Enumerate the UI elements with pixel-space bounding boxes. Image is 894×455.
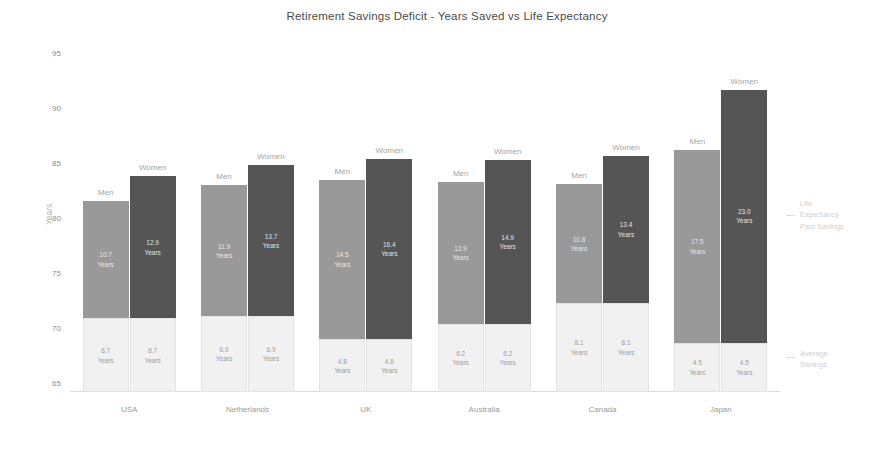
segment-value-label: 14.9 Years bbox=[485, 232, 531, 251]
bar-group-netherlands: 6.9 Years11.9 YearsMen6.9 Years13.7 Year… bbox=[201, 62, 294, 392]
bar-top-label-women: Women bbox=[248, 152, 294, 161]
segment-value-label: 23.0 Years bbox=[721, 207, 767, 226]
segment-life-expectancy-past-savings: 16.4 Years bbox=[366, 159, 412, 339]
segment-life-expectancy-past-savings: 23.0 Years bbox=[721, 90, 767, 343]
y-axis-tick-label: 70 bbox=[52, 324, 70, 333]
segment-value-label: 13.7 Years bbox=[248, 231, 294, 250]
segment-average-savings: 6.2 Years bbox=[485, 324, 531, 392]
segment-life-expectancy-past-savings: 13.4 Years bbox=[603, 156, 649, 303]
segment-average-savings: 4.8 Years bbox=[366, 339, 412, 392]
y-axis-tick-label: 75 bbox=[52, 269, 70, 278]
segment-value-label: 13.4 Years bbox=[603, 220, 649, 239]
bar-top-label-women: Women bbox=[366, 146, 412, 155]
segment-life-expectancy-past-savings: 10.7 Years bbox=[83, 201, 129, 319]
annotation-leader-deficit bbox=[786, 215, 795, 216]
bar-australia-men[interactable]: 6.2 Years12.9 YearsMen bbox=[438, 182, 484, 392]
x-axis-category-label: Japan bbox=[710, 405, 732, 414]
bar-uk-men[interactable]: 4.8 Years14.5 YearsMen bbox=[319, 180, 365, 392]
x-axis-category-label: Netherlands bbox=[226, 405, 269, 414]
segment-value-label: 6.7 Years bbox=[84, 346, 128, 365]
segment-average-savings: 4.5 Years bbox=[674, 343, 720, 393]
segment-value-label: 4.8 Years bbox=[367, 356, 411, 375]
segment-value-label: 11.9 Years bbox=[201, 241, 247, 260]
y-axis-tick-label: 80 bbox=[52, 214, 70, 223]
segment-value-label: 6.9 Years bbox=[249, 345, 293, 364]
bar-top-label-women: Women bbox=[130, 163, 176, 172]
bar-group-uk: 4.8 Years14.5 YearsMen4.8 Years16.4 Year… bbox=[319, 62, 412, 392]
bar-australia-women[interactable]: 6.2 Years14.9 YearsWomen bbox=[485, 160, 531, 392]
bar-top-label-men: Men bbox=[556, 171, 602, 180]
segment-value-label: 12.9 Years bbox=[438, 243, 484, 262]
bar-group-canada: 8.1 Years10.8 YearsMen8.1 Years13.4 Year… bbox=[556, 62, 649, 392]
segment-life-expectancy-past-savings: 14.9 Years bbox=[485, 160, 531, 324]
x-axis-category-label: Canada bbox=[588, 405, 616, 414]
bar-top-label-men: Men bbox=[83, 188, 129, 197]
segment-value-label: 4.5 Years bbox=[675, 358, 719, 377]
segment-average-savings: 8.1 Years bbox=[603, 303, 649, 392]
segment-average-savings: 4.5 Years bbox=[721, 343, 767, 393]
bar-japan-women[interactable]: 4.5 Years23.0 YearsWomen bbox=[721, 90, 767, 393]
y-axis-tick-label: 85 bbox=[52, 159, 70, 168]
segment-value-label: 4.5 Years bbox=[722, 358, 766, 377]
chart-container: Retirement Savings Deficit - Years Saved… bbox=[0, 0, 894, 455]
segment-life-expectancy-past-savings: 12.9 Years bbox=[130, 176, 176, 318]
segment-value-label: 6.2 Years bbox=[439, 348, 483, 367]
segment-life-expectancy-past-savings: 12.9 Years bbox=[438, 182, 484, 324]
bar-canada-men[interactable]: 8.1 Years10.8 YearsMen bbox=[556, 184, 602, 392]
segment-value-label: 6.7 Years bbox=[131, 346, 175, 365]
segment-value-label: 10.8 Years bbox=[556, 234, 602, 253]
bar-top-label-women: Women bbox=[721, 77, 767, 86]
segment-value-label: 6.2 Years bbox=[486, 348, 530, 367]
segment-value-label: 10.7 Years bbox=[83, 250, 129, 269]
segment-life-expectancy-past-savings: 13.7 Years bbox=[248, 165, 294, 316]
segment-average-savings: 6.7 Years bbox=[130, 318, 176, 392]
plot-area: 65707580859095 6.7 Years10.7 YearsMen6.7… bbox=[70, 62, 780, 392]
y-axis-tick-label: 95 bbox=[52, 49, 70, 58]
segment-value-label: 17.5 Years bbox=[674, 237, 720, 256]
segment-life-expectancy-past-savings: 14.5 Years bbox=[319, 180, 365, 340]
bar-netherlands-men[interactable]: 6.9 Years11.9 YearsMen bbox=[201, 185, 247, 392]
segment-average-savings: 6.7 Years bbox=[83, 318, 129, 392]
bar-top-label-women: Women bbox=[485, 147, 531, 156]
bar-canada-women[interactable]: 8.1 Years13.4 YearsWomen bbox=[603, 156, 649, 393]
segment-value-label: 14.5 Years bbox=[319, 250, 365, 269]
y-axis-tick-label: 90 bbox=[52, 104, 70, 113]
segment-value-label: 8.1 Years bbox=[604, 338, 648, 357]
bar-usa-men[interactable]: 6.7 Years10.7 YearsMen bbox=[83, 201, 129, 392]
segment-value-label: 8.1 Years bbox=[557, 338, 601, 357]
bar-group-australia: 6.2 Years12.9 YearsMen6.2 Years14.9 Year… bbox=[438, 62, 531, 392]
chart-title: Retirement Savings Deficit - Years Saved… bbox=[0, 10, 894, 22]
bar-top-label-men: Men bbox=[201, 172, 247, 181]
bar-top-label-men: Men bbox=[319, 167, 365, 176]
bar-japan-men[interactable]: 4.5 Years17.5 YearsMen bbox=[674, 150, 720, 392]
segment-value-label: 12.9 Years bbox=[130, 238, 176, 257]
x-axis-category-label: USA bbox=[121, 405, 137, 414]
bar-uk-women[interactable]: 4.8 Years16.4 YearsWomen bbox=[366, 159, 412, 392]
bar-top-label-women: Women bbox=[603, 143, 649, 152]
bar-netherlands-women[interactable]: 6.9 Years13.7 YearsWomen bbox=[248, 165, 294, 392]
annotation-leader-savings bbox=[786, 357, 795, 358]
bar-usa-women[interactable]: 6.7 Years12.9 YearsWomen bbox=[130, 176, 176, 392]
segment-life-expectancy-past-savings: 11.9 Years bbox=[201, 185, 247, 316]
segment-value-label: 4.8 Years bbox=[320, 356, 364, 375]
bar-top-label-men: Men bbox=[438, 169, 484, 178]
segment-life-expectancy-past-savings: 17.5 Years bbox=[674, 150, 720, 343]
segment-average-savings: 6.9 Years bbox=[201, 316, 247, 392]
segment-value-label: 6.9 Years bbox=[202, 345, 246, 364]
annotation-average-savings: Average Savings bbox=[800, 348, 828, 371]
x-axis-category-label: UK bbox=[360, 405, 371, 414]
x-axis-category-label: Australia bbox=[469, 405, 500, 414]
y-axis-tick-label: 65 bbox=[52, 379, 70, 388]
bar-group-japan: 4.5 Years17.5 YearsMen4.5 Years23.0 Year… bbox=[674, 62, 767, 392]
segment-average-savings: 6.2 Years bbox=[438, 324, 484, 392]
segment-average-savings: 6.9 Years bbox=[248, 316, 294, 392]
bar-group-usa: 6.7 Years10.7 YearsMen6.7 Years12.9 Year… bbox=[83, 62, 176, 392]
annotation-life-expectancy-past-savings: Life Expectancy Past Savings bbox=[800, 198, 844, 232]
segment-life-expectancy-past-savings: 10.8 Years bbox=[556, 184, 602, 303]
segment-average-savings: 4.8 Years bbox=[319, 339, 365, 392]
segment-average-savings: 8.1 Years bbox=[556, 303, 602, 392]
bar-top-label-men: Men bbox=[674, 137, 720, 146]
segment-value-label: 16.4 Years bbox=[366, 240, 412, 259]
